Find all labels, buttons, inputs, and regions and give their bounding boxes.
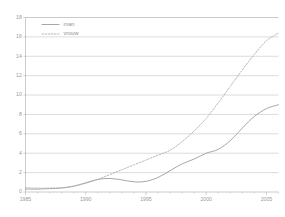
- y-tick-label-2: 2: [19, 169, 22, 175]
- y-axis-ticks: 024681012141618: [16, 14, 25, 195]
- y-tick-label-12: 12: [16, 72, 22, 78]
- line-chart: 024681012141618 19851990199520002005 man…: [0, 0, 285, 217]
- legend-label-vrouw: vrouw: [64, 30, 80, 36]
- x-tick-label-1985: 1985: [20, 196, 32, 202]
- legend-label-man: man: [64, 21, 75, 27]
- series-line-man: [26, 105, 279, 189]
- y-tick-label-0: 0: [19, 188, 22, 194]
- y-tick-label-10: 10: [16, 91, 22, 97]
- axis-lines: [26, 18, 279, 193]
- x-axis-ticks: 19851990199520002005: [20, 192, 279, 202]
- x-tick-label-2000: 2000: [200, 196, 212, 202]
- y-tick-label-8: 8: [19, 111, 22, 117]
- chart-legend: manvrouw: [42, 21, 79, 37]
- y-tick-label-4: 4: [19, 150, 22, 156]
- y-tick-label-14: 14: [16, 53, 22, 59]
- x-tick-label-1995: 1995: [140, 196, 152, 202]
- y-tick-label-18: 18: [16, 14, 22, 20]
- x-tick-label-2005: 2005: [261, 196, 273, 202]
- chart-canvas: 024681012141618 19851990199520002005 man…: [0, 0, 285, 217]
- y-tick-label-16: 16: [16, 33, 22, 39]
- y-tick-label-6: 6: [19, 130, 22, 136]
- x-tick-label-1990: 1990: [80, 196, 92, 202]
- gridlines: [26, 18, 279, 173]
